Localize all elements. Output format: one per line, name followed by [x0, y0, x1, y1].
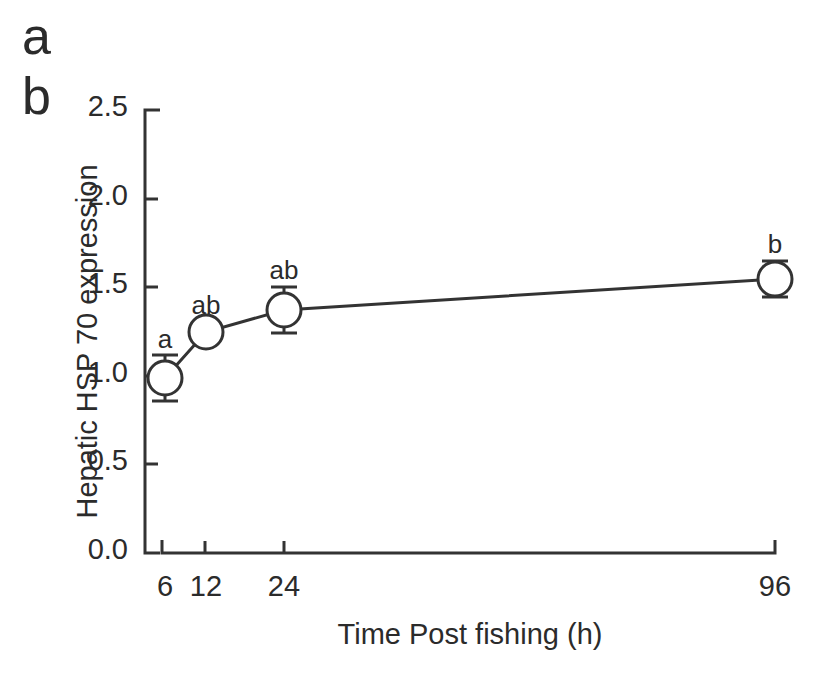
data-point-96h [758, 262, 792, 296]
significance-letter-6h: a [145, 324, 185, 355]
x-tick-label-96: 96 [752, 570, 798, 603]
significance-letter-24h: ab [261, 255, 307, 286]
data-point-6h [148, 361, 182, 395]
significance-letter-96h: b [755, 229, 795, 260]
y-tick-label-5: 2.5 [58, 90, 128, 123]
data-point-24h [267, 293, 301, 327]
x-tick-label-6: 6 [145, 570, 185, 603]
x-tick-label-24: 24 [261, 570, 307, 603]
x-axis-ticks [205, 541, 284, 553]
figure-panel-b: a b Hepatic HSP 70 expression Time Post … [0, 0, 817, 692]
data-series-hsp70 [148, 261, 792, 401]
axes-group [145, 110, 775, 553]
y-tick-label-1: 0.5 [58, 444, 128, 477]
significance-letter-12h: ab [183, 290, 229, 321]
x-tick-label-12: 12 [183, 570, 229, 603]
y-tick-label-0: 0.0 [58, 533, 128, 566]
y-tick-label-2: 1.0 [58, 356, 128, 389]
y-tick-label-4: 2.0 [58, 179, 128, 212]
y-tick-label-3: 1.5 [58, 267, 128, 300]
x-axis-line [162, 540, 775, 553]
series-line [165, 279, 775, 378]
